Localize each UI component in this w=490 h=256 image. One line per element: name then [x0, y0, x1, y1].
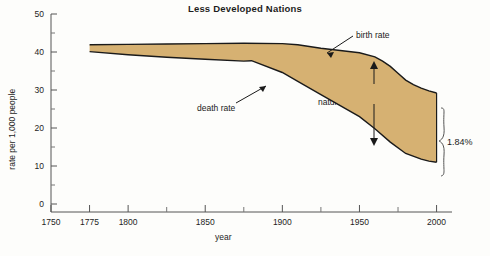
y-tick-label: 20: [22, 124, 44, 133]
y-tick-label: 10: [22, 162, 44, 171]
x-tick-label: 1950: [339, 218, 379, 227]
x-tick-label: 2000: [417, 218, 457, 227]
x-tick-label: 1800: [108, 218, 148, 227]
x-tick-label: 1900: [262, 218, 302, 227]
x-tick-label: 1775: [70, 218, 110, 227]
x-tick-label: 1750: [31, 218, 71, 227]
brace-icon: [439, 108, 444, 176]
x-tick-label: 1850: [185, 218, 225, 227]
natural-increase-fill: [90, 43, 437, 162]
y-tick-label: 40: [22, 48, 44, 57]
y-tick-label: 50: [22, 10, 44, 19]
y-tick-label: 30: [22, 86, 44, 95]
y-tick-label: 0: [22, 200, 44, 209]
chart-figure: Less Developed Nations rate per 1,000 pe…: [0, 0, 490, 256]
natural-increase-band: [90, 43, 437, 162]
rni-lower-arrowhead: [370, 138, 378, 146]
